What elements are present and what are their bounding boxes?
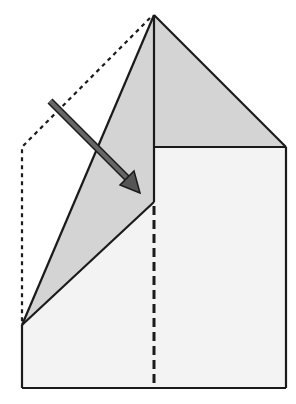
diagram-canvas	[0, 0, 296, 404]
folding-diagram: Fold the left flap along the diagonal so…	[0, 0, 296, 404]
right-panel	[154, 147, 286, 388]
